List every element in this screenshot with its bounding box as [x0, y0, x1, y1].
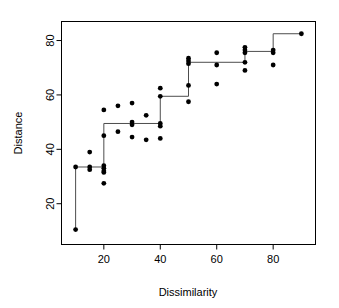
- data-point: [116, 103, 121, 108]
- data-point: [243, 60, 248, 65]
- y-tick-label: 80: [45, 34, 57, 46]
- data-point: [158, 136, 163, 141]
- x-tick-label: 20: [98, 253, 110, 265]
- x-axis-title: Dissimilarity: [159, 286, 218, 298]
- data-point: [130, 135, 135, 140]
- y-tick-label: 40: [45, 143, 57, 155]
- data-point: [73, 165, 78, 170]
- x-axis-ticks: 20406080: [98, 245, 280, 265]
- data-point: [186, 61, 191, 66]
- data-point: [243, 68, 248, 73]
- data-point: [101, 133, 106, 138]
- data-point: [271, 63, 276, 68]
- data-point: [158, 94, 163, 99]
- plot-frame: [62, 22, 316, 245]
- data-point: [87, 167, 92, 172]
- x-tick-label: 60: [211, 253, 223, 265]
- x-tick-label: 40: [154, 253, 166, 265]
- y-axis-title: Distance: [12, 112, 24, 155]
- data-point: [214, 63, 219, 68]
- data-point: [214, 50, 219, 55]
- plot-canvas: 20406080 20406080 Dissimilarity Distance: [0, 0, 339, 308]
- data-point: [214, 82, 219, 87]
- data-point: [87, 150, 92, 155]
- data-point: [130, 122, 135, 127]
- y-tick-label: 20: [45, 198, 57, 210]
- data-points: [73, 31, 304, 232]
- x-tick-label: 80: [267, 253, 279, 265]
- data-point: [271, 50, 276, 55]
- data-point: [243, 50, 248, 55]
- data-point: [73, 227, 78, 232]
- data-point: [144, 113, 149, 118]
- data-point: [101, 107, 106, 112]
- y-axis-ticks: 20406080: [45, 34, 62, 209]
- data-point: [116, 129, 121, 134]
- data-point: [130, 101, 135, 106]
- y-tick-label: 60: [45, 89, 57, 101]
- data-point: [144, 137, 149, 142]
- data-point: [186, 99, 191, 104]
- data-point: [158, 124, 163, 129]
- data-point: [158, 86, 163, 91]
- scatter-plot-figure: 20406080 20406080 Dissimilarity Distance: [0, 0, 339, 308]
- data-point: [101, 170, 106, 175]
- data-point: [299, 31, 304, 36]
- data-point: [186, 83, 191, 88]
- data-point: [101, 181, 106, 186]
